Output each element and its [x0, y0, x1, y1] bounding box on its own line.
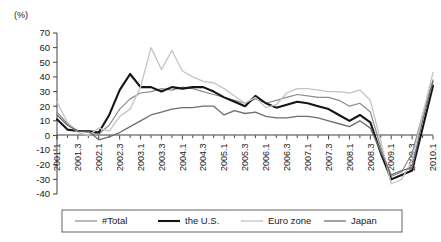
x-axis-tick-label: 2003.3	[157, 143, 167, 171]
x-axis-tick-label: 2005.1	[219, 143, 229, 171]
x-axis-tick-label: 2004.3	[198, 143, 208, 171]
y-axis-tick-label: 0	[45, 130, 50, 141]
x-axis-tick-label: 2002.3	[115, 143, 125, 171]
legend-entries: #Totalthe U.S.Euro zoneJapan	[75, 215, 377, 226]
line-chart: (%) 706050403020100-10-20-30-40 2001.120…	[0, 0, 441, 242]
y-axis-tick-label: -10	[36, 144, 50, 155]
legend-label-japan: Japan	[351, 215, 377, 226]
y-axis-tick-label: 10	[39, 115, 50, 126]
y-axis-tick-label: 30	[39, 86, 50, 97]
y-axis-tick-group: 706050403020100-10-20-30-40	[36, 27, 57, 199]
x-axis-tick-label: 2006.3	[282, 143, 292, 171]
x-axis-tick-label: 2002.1	[94, 143, 104, 171]
legend-label-the-u-s: the U.S.	[185, 215, 219, 226]
x-axis-tick-label: 2004.1	[178, 143, 188, 171]
x-axis-tick-label: 2006.1	[261, 143, 271, 171]
x-axis-tick-label: 2001.3	[73, 143, 83, 171]
x-axis-tick-label: 2005.3	[240, 143, 250, 171]
y-axis-tick-label: -40	[36, 188, 50, 199]
y-axis-tick-label: 40	[39, 71, 50, 82]
y-axis-tick-label: 50	[39, 57, 50, 68]
y-axis-tick-label: 70	[39, 27, 50, 38]
chart-figure: (%) 706050403020100-10-20-30-40 2001.120…	[0, 0, 441, 242]
y-axis-tick-label: -20	[36, 159, 50, 170]
y-axis-tick-label: 60	[39, 42, 50, 53]
x-axis-tick-label: 2010.1	[428, 143, 438, 171]
legend-label-euro-zone: Euro zone	[268, 215, 311, 226]
y-axis-tick-label: 20	[39, 101, 50, 112]
y-axis-tick-label: -30	[36, 174, 50, 185]
x-axis-tick-label: 2008.3	[366, 143, 376, 171]
legend-label-total: #Total	[102, 215, 127, 226]
x-axis-tick-label: 2008.1	[345, 143, 355, 171]
x-axis-tick-label: 2007.1	[303, 143, 313, 171]
x-axis-tick-label: 2003.1	[136, 143, 146, 171]
x-axis-tick-label: 2007.3	[324, 143, 334, 171]
y-axis-unit-label: (%)	[14, 10, 28, 20]
